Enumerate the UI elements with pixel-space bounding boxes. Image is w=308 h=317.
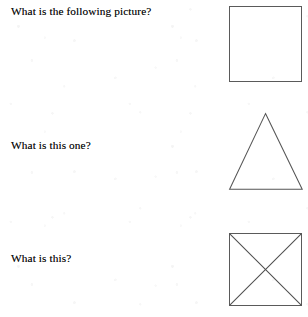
- square-icon: [229, 6, 302, 82]
- square-figure: [229, 6, 302, 82]
- triangle-icon: [229, 113, 303, 190]
- square-with-diagonals-icon: [229, 233, 302, 306]
- triangle-figure: [229, 113, 303, 190]
- square-with-diagonals-figure: [229, 233, 302, 306]
- question-prompt-1: What is the following picture?: [11, 5, 151, 18]
- question-prompt-2: What is this one?: [11, 139, 91, 152]
- question-prompt-3: What is this?: [11, 252, 71, 265]
- document-page: What is the following picture? What is t…: [0, 0, 308, 317]
